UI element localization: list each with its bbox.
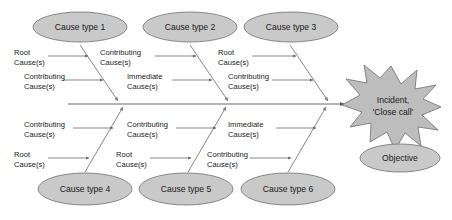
category-label-top-3: Cause type 3 — [266, 22, 317, 32]
cause-label-top-2b-line1: Immediate — [127, 72, 162, 81]
cause-label-top-1b-line2: Cause(s) — [24, 82, 55, 91]
cause-label-top-3b-line1: Contributing — [228, 72, 269, 81]
cause-label-bottom-3a: Immediate Cause(s) — [228, 120, 263, 139]
cause-label-bottom-3a-line1: Immediate — [228, 120, 263, 129]
objective-label: Objective — [382, 153, 418, 163]
objective-node[interactable]: Objective — [360, 144, 440, 172]
cause-label-bottom-3b-line1: Contributing — [207, 150, 248, 159]
category-label-bottom-3: Cause type 6 — [263, 184, 314, 194]
cause-label-bottom-3a-line2: Cause(s) — [228, 130, 259, 139]
cause-label-top-1b-line1: Contributing — [24, 72, 65, 81]
category-bottom-3[interactable]: Cause type 6 — [241, 173, 335, 205]
cause-label-bottom-1a-line1: Contributing — [24, 120, 65, 129]
cause-label-bottom-2b: Root Cause(s) — [116, 150, 147, 169]
cause-label-top-3b: Contributing Cause(s) — [228, 72, 269, 91]
cause-label-top-3a: Root Cause(s) — [218, 48, 249, 67]
cause-label-top-3b-line2: Cause(s) — [228, 82, 259, 91]
cause-label-bottom-2a: Contributing Cause(s) — [127, 120, 168, 139]
cause-label-bottom-1b: Root Cause(s) — [14, 150, 45, 169]
cause-label-top-2b: Immediate Cause(s) — [127, 72, 162, 91]
category-label-top-2: Cause type 2 — [165, 22, 216, 32]
cause-label-bottom-2b-line1: Root — [116, 150, 133, 159]
cause-label-bottom-3b-line2: Cause(s) — [207, 160, 238, 169]
bone-top-3 — [290, 45, 328, 101]
cause-label-bottom-3b: Contributing Cause(s) — [207, 150, 248, 169]
cause-label-bottom-1b-line2: Cause(s) — [14, 160, 45, 169]
cause-label-bottom-1a: Contributing Cause(s) — [24, 120, 65, 139]
fishbone-canvas: Cause type 1 Cause type 2 Cause type 3 C… — [0, 0, 452, 220]
cause-label-top-1a: Root Cause(s) — [14, 48, 45, 67]
category-bottom-1[interactable]: Cause type 4 — [38, 173, 132, 205]
cause-label-bottom-2b-line2: Cause(s) — [116, 160, 147, 169]
top-cause-arrows-group — [48, 56, 313, 80]
category-bottom-2[interactable]: Cause type 5 — [139, 173, 233, 205]
cause-label-top-2a-line1: Contributing — [100, 48, 141, 57]
cause-label-top-1a-line2: Cause(s) — [14, 58, 45, 67]
fishbone-diagram: Cause type 1 Cause type 2 Cause type 3 C… — [0, 0, 452, 220]
cause-label-bottom-1b-line1: Root — [14, 150, 31, 159]
cause-label-bottom-1a-line2: Cause(s) — [24, 130, 55, 139]
cause-label-bottom-2a-line2: Cause(s) — [127, 130, 158, 139]
cause-label-top-1b: Contributing Cause(s) — [24, 72, 65, 91]
category-label-top-1: Cause type 1 — [55, 22, 106, 32]
effect-label-line1: Incident, — [377, 95, 410, 105]
cause-label-top-3a-line1: Root — [218, 48, 235, 57]
category-top-1[interactable]: Cause type 1 — [33, 12, 127, 42]
cause-label-top-3a-line2: Cause(s) — [218, 58, 249, 67]
bottom-cause-arrows-group — [48, 128, 316, 158]
cause-label-top-1a-line1: Root — [14, 48, 31, 57]
category-label-bottom-1: Cause type 4 — [60, 184, 111, 194]
category-top-2[interactable]: Cause type 2 — [143, 12, 237, 42]
effect-label-line2: 'Close call' — [373, 107, 414, 117]
bone-bottom-3 — [288, 107, 326, 172]
effect-starburst[interactable]: Incident, 'Close call' — [342, 65, 441, 150]
cause-label-top-2a: Contributing Cause(s) — [100, 48, 141, 67]
cause-label-top-2a-line2: Cause(s) — [100, 58, 131, 67]
category-top-3[interactable]: Cause type 3 — [244, 12, 338, 42]
cause-label-bottom-2a-line1: Contributing — [127, 120, 168, 129]
cause-label-top-2b-line2: Cause(s) — [127, 82, 158, 91]
category-label-bottom-2: Cause type 5 — [161, 184, 212, 194]
